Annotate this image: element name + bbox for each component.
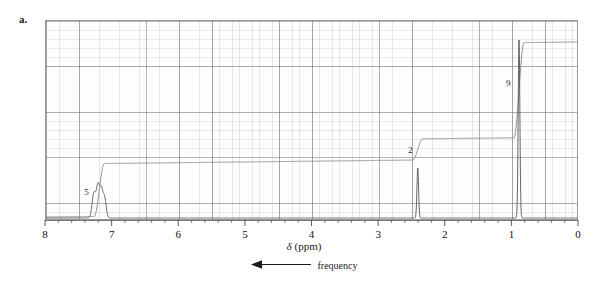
x-tick-label-0: 0 <box>568 228 588 240</box>
x-tick-label-2: 2 <box>435 228 455 240</box>
x-tick-label-5: 5 <box>235 228 255 240</box>
x-tick-label-3: 3 <box>368 228 388 240</box>
x-tick-label-8: 8 <box>35 228 55 240</box>
frequency-annotation: frequency <box>0 259 608 272</box>
frequency-label: frequency <box>318 260 358 271</box>
x-tick-label-1: 1 <box>501 228 521 240</box>
x-tick-label-4: 4 <box>302 228 322 240</box>
x-axis-title: δ (ppm) <box>0 240 608 252</box>
x-tick-label-6: 6 <box>168 228 188 240</box>
delta-symbol: δ <box>287 240 292 252</box>
left-arrow-icon <box>251 259 311 272</box>
axis-units: (ppm) <box>294 240 321 252</box>
x-tick-label-7: 7 <box>102 228 122 240</box>
nmr-figure: a. 5 2 9 876543210 δ (ppm) frequency <box>0 0 608 281</box>
